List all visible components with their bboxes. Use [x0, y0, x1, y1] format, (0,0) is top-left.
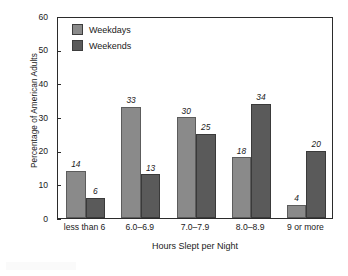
y-tick-mark	[57, 118, 61, 119]
y-tick-label: 10	[8, 181, 48, 190]
bar-value-label: 13	[135, 164, 167, 173]
y-tick-label: 50	[8, 46, 48, 55]
x-tick-label: 8.0–8.9	[219, 222, 282, 232]
bar	[306, 151, 326, 218]
bars-container: 146331330251834420	[58, 18, 332, 218]
bar-value-label: 30	[171, 107, 203, 116]
y-tick-mark	[57, 152, 61, 153]
bar	[287, 205, 307, 218]
bar	[232, 157, 252, 218]
y-tick-mark	[57, 51, 61, 52]
plot-area: Weekdays Weekends 146331330251834420	[57, 17, 333, 219]
bar-chart-figure: Percentage of American Adults 0102030405…	[0, 0, 348, 276]
y-tick-label: 30	[8, 114, 48, 123]
y-tick-mark	[57, 219, 61, 220]
bar-value-label: 6	[80, 187, 112, 196]
bar-value-label: 33	[115, 96, 147, 105]
bar	[86, 198, 106, 218]
y-tick-label: 0	[8, 215, 48, 224]
x-tick-label: 7.0–7.9	[163, 222, 226, 232]
bar	[251, 104, 271, 218]
y-tick-label: 40	[8, 80, 48, 89]
x-axis-title: Hours Slept per Night	[57, 241, 333, 251]
bar-value-label: 34	[245, 93, 277, 102]
y-tick-label: 60	[8, 13, 48, 22]
bar-value-label: 20	[300, 140, 332, 149]
bar	[121, 107, 141, 218]
y-tick-label: 20	[8, 147, 48, 156]
page-artifact	[6, 262, 76, 270]
y-tick-mark	[57, 17, 61, 18]
y-tick-mark	[57, 84, 61, 85]
x-tick-label: 6.0–6.9	[108, 222, 171, 232]
x-tick-label: less than 6	[53, 222, 116, 232]
y-axis-tick-labels: 0102030405060	[0, 0, 57, 276]
bar-value-label: 25	[190, 123, 222, 132]
y-tick-mark	[57, 185, 61, 186]
bar	[141, 174, 161, 218]
bar-value-label: 14	[60, 160, 92, 169]
x-tick-label: 9 or more	[274, 222, 337, 232]
x-axis-tick-labels: less than 66.0–6.97.0–7.98.0–8.99 or mor…	[57, 222, 333, 238]
bar	[196, 134, 216, 218]
